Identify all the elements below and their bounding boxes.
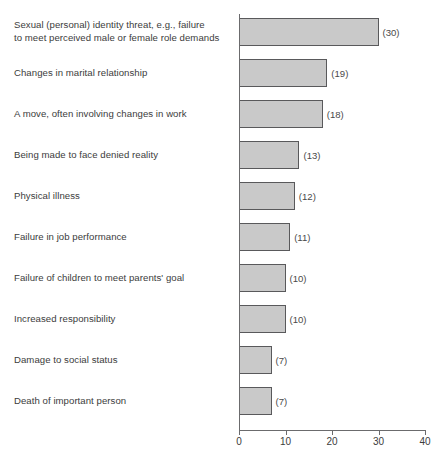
bar-row: Failure of children to meet parents' goa… [0,264,438,292]
bar-value-label: (19) [331,68,348,79]
bar-value-label: (10) [290,314,307,325]
bar-value-label: (7) [276,396,288,407]
bar [239,264,286,292]
bar-category-label: Changes in marital relationship [14,67,230,80]
bar [239,346,272,374]
bar-category-label: A move, often involving changes in work [14,108,230,121]
bar [239,182,295,210]
bar-row: Failure in job performance(11) [0,223,438,251]
x-axis-tick [425,430,426,435]
bar-category-label: Failure of children to meet parents' goa… [14,272,230,285]
bar [239,305,286,333]
bar-category-label: Death of important person [14,395,230,408]
bar-row: Changes in marital relationship(19) [0,59,438,87]
x-axis-tick [379,430,380,435]
x-axis-tick [286,430,287,435]
bar [239,387,272,415]
bar-category-label: Damage to social status [14,354,230,367]
x-axis-tick-label: 0 [236,436,242,447]
bar [239,141,299,169]
bar-row: Damage to social status(7) [0,346,438,374]
bar [239,59,327,87]
bar-value-label: (13) [303,150,320,161]
bar-value-label: (30) [383,27,400,38]
bar-category-label: Being made to face denied reality [14,149,230,162]
bar [239,18,379,46]
bar-value-label: (18) [327,109,344,120]
x-axis-tick [239,430,240,435]
bar-chart: Sexual (personal) identity threat, e.g.,… [0,0,438,450]
bar-row: Physical illness(12) [0,182,438,210]
bar-category-label: Sexual (personal) identity threat, e.g.,… [14,19,230,44]
y-axis-line [239,14,240,430]
bar-category-label: Physical illness [14,190,230,203]
bar-row: Being made to face denied reality(13) [0,141,438,169]
bar-row: Sexual (personal) identity threat, e.g.,… [0,18,438,46]
bar-value-label: (11) [294,232,310,243]
x-axis-tick-label: 20 [326,436,337,447]
bar-value-label: (7) [276,355,288,366]
x-axis-tick-label: 30 [373,436,384,447]
x-axis-tick-label: 10 [280,436,291,447]
bar-row: Death of important person(7) [0,387,438,415]
bar-row: Increased responsibility(10) [0,305,438,333]
bar [239,223,290,251]
bar-value-label: (10) [290,273,307,284]
bar-row: A move, often involving changes in work(… [0,100,438,128]
bar [239,100,323,128]
bar-category-label: Failure in job performance [14,231,230,244]
x-axis-tick [332,430,333,435]
x-axis-tick-label: 40 [419,436,430,447]
bar-value-label: (12) [299,191,316,202]
bar-category-label: Increased responsibility [14,313,230,326]
